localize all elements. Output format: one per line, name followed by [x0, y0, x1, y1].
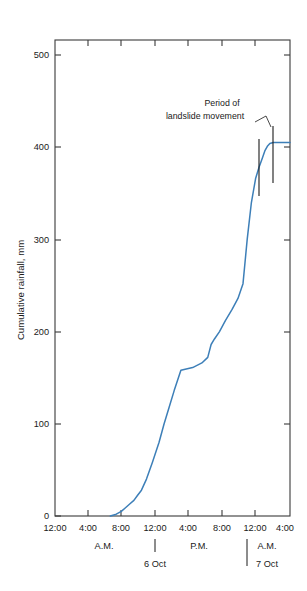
x-tick-label-7: 4:00 [276, 523, 294, 533]
x-axis-day-labels: 6 Oct 7 Oct [144, 559, 278, 569]
annotation-line-1: Period of [204, 98, 240, 108]
x-axis-tick-labels: 12:00 4:00 8:00 12:00 4:00 8:00 12:00 4:… [44, 523, 294, 533]
y-tick-marks-right [284, 55, 290, 424]
y-tick-label-200: 200 [34, 327, 49, 337]
x-tick-label-1: 4:00 [79, 523, 97, 533]
y-axis-title: Cumulative rainfall, mm [15, 240, 26, 340]
y-tick-label-400: 400 [34, 142, 49, 152]
y-tick-marks-left [55, 55, 61, 516]
x-tick-label-0: 12:00 [44, 523, 67, 533]
annotation-line-2: landslide movement [166, 111, 245, 121]
y-tick-label-300: 300 [34, 235, 49, 245]
period-label-am-6oct: A.M. [95, 541, 114, 551]
period-label-pm-6oct: P.M. [190, 541, 208, 551]
x-tick-label-5: 8:00 [213, 523, 231, 533]
cumulative-rainfall-line [110, 143, 290, 516]
x-tick-marks-top [88, 40, 255, 46]
y-tick-label-100: 100 [34, 419, 49, 429]
day-label-7oct: 7 Oct [256, 559, 278, 569]
x-tick-label-3: 12:00 [144, 523, 167, 533]
x-tick-label-2: 8:00 [112, 523, 130, 533]
x-axis-period-labels: A.M. P.M. A.M. [95, 541, 277, 551]
day-label-6oct: 6 Oct [144, 559, 166, 569]
x-tick-label-6: 12:00 [244, 523, 267, 533]
figure-container: 0 100 200 300 400 500 Cumulative rainfal… [0, 0, 307, 591]
x-tick-label-4: 4:00 [179, 523, 197, 533]
landslide-annotation: Period of landslide movement [166, 98, 245, 121]
period-label-am-7oct: A.M. [258, 541, 277, 551]
y-tick-label-500: 500 [34, 50, 49, 60]
annotation-leader-line [255, 116, 271, 127]
y-tick-label-0: 0 [44, 511, 49, 521]
y-axis-tick-labels: 0 100 200 300 400 500 [34, 50, 49, 521]
cumulative-rainfall-chart: 0 100 200 300 400 500 Cumulative rainfal… [0, 0, 307, 591]
